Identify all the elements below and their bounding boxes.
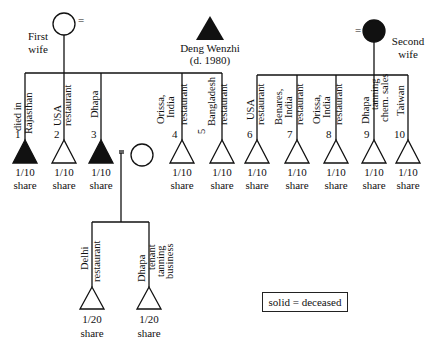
legend-box: solid = deceased [262,292,348,312]
grandchild-1-share: 1/20 [82,313,102,325]
child-3-share-label: share [89,179,112,191]
child-8-symbol [324,140,348,163]
child-9-symbol [362,140,386,163]
child-10-share: 1/10 [398,166,418,178]
second-wife-label: Second [392,35,425,47]
child-8-number: 8 [326,128,332,140]
child-6-label-2: restaurant [255,84,266,125]
first-wife-label: First [28,30,48,42]
child-2-symbol [52,140,76,163]
child-10-symbol [396,140,420,163]
child-1-label-2: Rajasthan [23,92,34,134]
grandchild-2-symbol [137,287,161,309]
child-9-share-label: share [362,179,385,191]
child-2-label-2: restaurant [62,85,73,126]
child-7-number: 7 [287,128,293,140]
child-3-symbol [89,140,113,163]
kinship-diagram: = = Deng Wenzhi (d. 1980) First wife Sec… [0,0,432,349]
child-10-number: 10 [394,128,406,140]
child-9-label-3: chem. sales [379,74,390,122]
child-1-symbol [13,140,37,163]
child-5-number: 5 [196,129,207,134]
child-9-share: 1/10 [364,166,384,178]
child-7-share-label: share [285,179,308,191]
child-3-label: Dhapa [89,90,100,118]
child-5-symbol [210,140,234,163]
child-2-share-label: share [52,179,75,191]
child-6-symbol [245,140,269,163]
first-wife-symbol [53,13,75,35]
grandchild-2-share-label: share [137,327,160,339]
child-8-label-3: restaurant [333,84,344,125]
grandchild-1-share-label: share [80,327,103,339]
child-7-symbol [285,140,309,163]
child-6-share: 1/10 [247,166,267,178]
father-name: Deng Wenzhi [180,42,240,54]
child-4-share: 1/10 [172,166,192,178]
child-8-label-2: India [321,96,332,118]
child-5-share: 1/10 [212,166,232,178]
marriage-equals-2: = [355,24,361,36]
child-5-share-label: share [210,179,233,191]
first-wife-label-2: wife [28,43,48,55]
child-10-share-label: share [396,179,419,191]
child-4-label-2: India [165,96,176,118]
child-5-label: Bangladesh [206,76,217,126]
child-8-share: 1/10 [326,166,346,178]
child-1-share-label: share [13,179,36,191]
child-5-label-2: restaurant [218,84,229,125]
child-9-number: 9 [364,128,370,140]
child-7-label-2: India [283,96,294,118]
child-1-share: 1/10 [15,166,35,178]
grandchild-1-label-2: restaurant [91,241,102,282]
grandchild-1-label: Delhi [79,247,90,270]
child-2-share: 1/10 [54,166,74,178]
child-6-share-label: share [245,179,268,191]
child-1-label: died in [12,101,23,131]
marriage-equals-1: = [78,14,84,26]
child-10-label: Taiwan [395,84,406,116]
second-wife-label-2: wife [398,48,418,60]
child-6-number: 6 [247,128,253,140]
child-2-number: 2 [54,128,60,140]
child-4-label-3: restaurant [178,84,189,125]
child-7-label-3: restaurant [294,84,305,125]
child-3-number: 3 [91,128,97,140]
grandchild-1-symbol [80,287,104,309]
child-7-share: 1/10 [287,166,307,178]
father-note: (d. 1980) [190,54,231,67]
child3-spouse-symbol [131,144,153,166]
second-wife-symbol [363,20,385,42]
child-4-share-label: share [170,179,193,191]
father-symbol [196,16,224,40]
grandchild-2-label-4: business [164,243,175,279]
child-3-share: 1/10 [91,166,111,178]
grandchild-2-share: 1/20 [139,313,159,325]
child-4-symbol [170,140,194,163]
child-4-number: 4 [172,128,178,140]
child-8-share-label: share [324,179,347,191]
